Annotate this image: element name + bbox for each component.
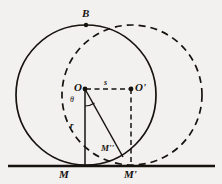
point-marker-b	[84, 23, 88, 27]
label-point-b: B	[82, 8, 89, 19]
label-intersection-m-double-prime: M''	[101, 144, 114, 153]
dashed-circle	[62, 25, 202, 165]
label-distance-s: s	[104, 79, 107, 87]
label-foot-m: M	[59, 169, 69, 180]
point-marker-o-prime	[129, 87, 134, 92]
label-center-o-prime: O'	[135, 82, 146, 93]
geometry-figure: B O O' s r θ M M' M''	[0, 0, 222, 184]
label-radius-r: r	[70, 121, 74, 130]
point-marker-o	[83, 87, 88, 92]
figure-canvas	[0, 0, 222, 184]
solid-circle	[16, 25, 156, 165]
angle-arc	[85, 103, 95, 106]
label-angle-theta: θ	[70, 96, 74, 104]
label-center-o: O	[74, 82, 82, 93]
label-foot-m-prime: M'	[124, 169, 137, 180]
